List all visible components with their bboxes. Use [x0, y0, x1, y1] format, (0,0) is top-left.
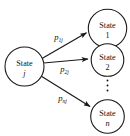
edge-p2j-line: [44, 59, 89, 63]
node-state-2-label: State: [99, 53, 116, 62]
vertical-ellipsis-dot: [107, 85, 109, 87]
node-state-n-label: State: [99, 109, 116, 118]
edge-p1j-line: [42, 33, 87, 59]
vertical-ellipsis-dot: [107, 90, 109, 92]
node-state-n[interactable]: State n: [91, 100, 125, 134]
state-transition-diagram: p1j p2j pnj State j State 1 State 2: [0, 0, 130, 136]
diagram-canvas: p1j p2j pnj State j State 1 State 2: [0, 0, 130, 136]
node-state-1[interactable]: State 1: [88, 9, 126, 47]
edge-label-p2j: p2j: [59, 64, 69, 75]
edge-label-pnj-sub: nj: [62, 98, 67, 104]
node-state-j[interactable]: State j: [5, 47, 44, 86]
node-state-n-index: n: [105, 119, 109, 128]
vertical-ellipsis-dot: [107, 80, 109, 82]
edge-label-pnj: pnj: [57, 93, 67, 104]
node-state-2-index: 2: [105, 63, 109, 72]
vertical-ellipsis-icon: [107, 80, 109, 92]
edge-label-p1j: p1j: [53, 32, 63, 43]
node-state-j-label: State: [16, 59, 33, 68]
node-state-1-index: 1: [105, 31, 109, 40]
node-state-2[interactable]: State 2: [91, 44, 124, 77]
node-state-1-label: State: [99, 21, 116, 30]
edge-label-p1j-sub: 1j: [58, 37, 63, 43]
edge-label-p2j-sub: 2j: [64, 69, 69, 75]
edge-labels-group: p1j p2j pnj: [53, 32, 69, 105]
